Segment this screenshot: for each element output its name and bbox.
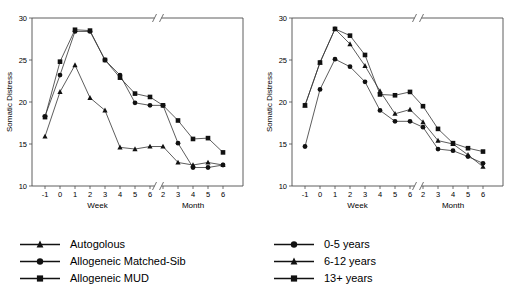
y-tick-label: 20 — [19, 98, 27, 107]
x-tick-label: 1 — [73, 190, 77, 199]
data-point-circle-icon — [148, 103, 153, 108]
data-point-square-icon — [148, 95, 153, 100]
data-point-circle-icon — [378, 108, 383, 113]
x-tick-label: 2 — [161, 190, 165, 199]
x-tick-label: 5 — [393, 190, 397, 199]
x-tick-label: 0 — [318, 190, 322, 199]
x-tick-label: -1 — [42, 190, 49, 199]
legend-item-label: Allogeneic Matched-Sib — [62, 253, 186, 270]
data-point-triangle-icon — [42, 134, 47, 139]
data-point-circle-icon — [421, 125, 426, 130]
x-tick-label: 4 — [191, 190, 195, 199]
data-point-square-icon — [103, 58, 108, 63]
x-tick-label: 3 — [103, 190, 107, 199]
data-point-circle-icon — [451, 148, 456, 153]
data-point-square-icon — [73, 27, 78, 32]
data-point-square-icon — [363, 53, 368, 58]
data-point-circle-icon — [333, 57, 338, 62]
data-point-square-icon — [408, 90, 413, 95]
data-point-circle-icon — [191, 165, 196, 170]
x-tick-label: 0 — [58, 190, 62, 199]
y-tick-label: 25 — [19, 56, 27, 65]
legend-item-label: 0-5 years — [316, 236, 370, 253]
y-tick-label: 10 — [279, 182, 287, 191]
x-tick-label: 2 — [421, 190, 425, 199]
x-tick-label: 3 — [176, 190, 180, 199]
triangle-legend-marker-icon — [18, 236, 62, 253]
legend-item-2[interactable]: Allogeneic Matched-Sib — [18, 253, 258, 270]
x-tick-label: 5 — [133, 190, 137, 199]
x-axis: -1012345623456WeekMonth — [302, 186, 485, 210]
x-axis-title-week: Week — [87, 201, 108, 210]
somatic-distress-by-transplant-type-chart: 1015202530Somatic Distress-1012345623456… — [0, 0, 260, 230]
data-point-circle-icon — [436, 147, 441, 152]
circle-legend-marker-icon — [18, 253, 62, 270]
data-point-circle-icon — [318, 87, 323, 92]
data-point-circle-icon — [303, 144, 308, 149]
x-tick-label: 5 — [466, 190, 470, 199]
legend-item-1[interactable]: 0-5 years — [272, 236, 502, 253]
legend-left: AutogolousAllogeneic Matched-SibAllogene… — [18, 236, 258, 294]
y-tick-label: 30 — [279, 14, 287, 23]
x-tick-label: 6 — [221, 190, 225, 199]
x-axis-title-month: Month — [182, 201, 204, 210]
x-tick-label: 4 — [378, 190, 382, 199]
series-1 — [42, 62, 225, 167]
data-point-circle-icon — [348, 64, 353, 69]
data-point-square-icon — [393, 93, 398, 98]
y-axis-title: Somatic Distress — [265, 72, 274, 132]
data-point-square-icon — [221, 150, 226, 155]
data-point-circle-icon — [408, 119, 413, 124]
legend-item-1[interactable]: Autogolous — [18, 236, 258, 253]
y-tick-label: 10 — [19, 182, 27, 191]
legend-item-label: 13+ years — [316, 270, 373, 287]
x-tick-label: 2 — [348, 190, 352, 199]
y-axis: 1015202530Somatic Distress — [5, 14, 32, 191]
legend-marker — [272, 270, 316, 287]
legend-marker — [18, 253, 62, 270]
data-point-square-icon — [58, 59, 63, 64]
data-point-square-icon — [118, 75, 123, 80]
y-tick-label: 25 — [279, 56, 287, 65]
y-tick-label: 15 — [279, 140, 287, 149]
data-point-triangle-icon — [72, 62, 77, 67]
data-point-circle-icon — [206, 165, 211, 170]
y-axis-title: Somatic Distress — [5, 72, 14, 132]
data-point-square-icon — [451, 141, 456, 146]
legend-item-3[interactable]: 13+ years — [272, 270, 502, 287]
data-point-square-icon — [43, 115, 48, 120]
legend-item-label: 6-12 years — [316, 253, 376, 270]
data-point-square-icon — [466, 146, 471, 151]
x-tick-label: 3 — [436, 190, 440, 199]
x-tick-label: 3 — [363, 190, 367, 199]
x-tick-label: 4 — [118, 190, 122, 199]
series-line — [45, 31, 223, 167]
y-tick-label: 20 — [279, 98, 287, 107]
figure-root: 1015202530Somatic Distress-1012345623456… — [0, 0, 520, 297]
data-point-circle-icon — [393, 119, 398, 124]
circle-legend-marker-icon — [272, 236, 316, 253]
data-point-square-icon — [436, 127, 441, 132]
x-tick-label: 6 — [481, 190, 485, 199]
data-point-square-icon — [303, 103, 308, 108]
somatic-distress-by-age-group-chart: 1015202530Somatic Distress-1012345623456… — [260, 0, 520, 230]
triangle-legend-marker-icon — [272, 253, 316, 270]
x-axis: -1012345623456WeekMonth — [42, 186, 225, 210]
legend-item-label: Autogolous — [62, 236, 125, 253]
series-line — [305, 29, 483, 152]
legend-marker — [18, 270, 62, 287]
data-point-triangle-icon — [87, 95, 92, 100]
series-line — [45, 30, 223, 153]
y-axis: 1015202530Somatic Distress — [265, 14, 292, 191]
axes-frame — [292, 14, 503, 190]
data-point-triangle-icon — [407, 107, 412, 112]
data-point-triangle-icon — [465, 152, 470, 157]
data-point-triangle-icon — [117, 145, 122, 150]
legend-marker — [272, 253, 316, 270]
data-point-triangle-icon — [102, 108, 107, 113]
legend-marker — [272, 236, 316, 253]
legend-item-3[interactable]: Allogeneic MUD — [18, 270, 258, 287]
legend-item-2[interactable]: 6-12 years — [272, 253, 502, 270]
x-tick-label: 4 — [451, 190, 455, 199]
x-tick-label: 2 — [88, 190, 92, 199]
